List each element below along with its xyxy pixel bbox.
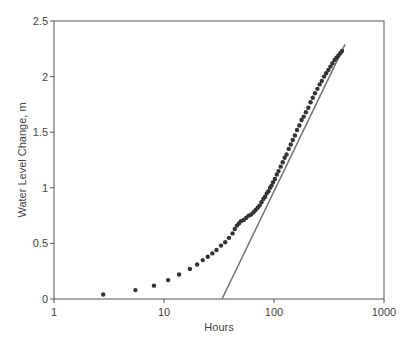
fit-line-path xyxy=(222,44,345,299)
chart: 1101001000 00.511.522.5 Hours Water Leve… xyxy=(0,0,412,343)
y-tick-label: 1.5 xyxy=(33,126,48,138)
data-point xyxy=(166,278,170,282)
data-point xyxy=(230,231,234,235)
data-point xyxy=(308,100,312,104)
data-point xyxy=(210,251,214,255)
y-tick-label: 1 xyxy=(42,182,48,194)
fit-line xyxy=(222,44,345,299)
data-point xyxy=(340,49,344,53)
data-point xyxy=(188,267,192,271)
data-point xyxy=(286,147,290,151)
data-point xyxy=(278,164,282,168)
x-tick-label: 100 xyxy=(265,306,283,318)
x-tick-label: 1 xyxy=(51,306,57,318)
x-axis-label: Hours xyxy=(204,321,234,333)
y-axis-ticks: 00.511.522.5 xyxy=(33,15,54,305)
y-tick-label: 0 xyxy=(42,293,48,305)
data-point xyxy=(152,283,156,287)
data-point xyxy=(133,288,137,292)
y-tick-label: 0.5 xyxy=(33,237,48,249)
data-point xyxy=(291,138,295,142)
data-point xyxy=(219,243,223,247)
data-point xyxy=(227,236,231,240)
data-point xyxy=(214,248,218,252)
x-axis-ticks: 1101001000 xyxy=(51,299,396,318)
y-tick-label: 2 xyxy=(42,71,48,83)
data-points xyxy=(101,49,344,297)
data-point xyxy=(206,255,210,259)
data-point xyxy=(281,160,285,164)
data-point xyxy=(223,240,227,244)
data-point xyxy=(276,169,280,173)
data-point xyxy=(295,128,299,132)
y-axis-label: Water Level Change, m xyxy=(16,102,28,217)
data-point xyxy=(201,258,205,262)
data-point xyxy=(304,110,308,114)
data-point xyxy=(320,79,324,83)
data-point xyxy=(101,292,105,296)
data-point xyxy=(301,114,305,118)
data-point xyxy=(315,87,319,91)
data-point xyxy=(313,91,317,95)
x-tick-label: 10 xyxy=(158,306,170,318)
x-tick-label: 1000 xyxy=(372,306,396,318)
data-point xyxy=(284,152,288,156)
data-point xyxy=(195,262,199,266)
data-point xyxy=(177,272,181,276)
data-point xyxy=(273,177,277,181)
data-point xyxy=(306,106,310,110)
data-point xyxy=(293,133,297,137)
data-point xyxy=(297,123,301,127)
data-point xyxy=(289,142,293,146)
y-tick-label: 2.5 xyxy=(33,15,48,27)
data-point xyxy=(311,96,315,100)
